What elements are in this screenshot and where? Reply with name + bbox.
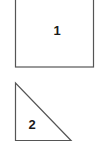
diagram-canvas: 1 2	[0, 0, 111, 156]
triangle-label: 2	[28, 117, 35, 132]
shape-square: 1	[16, 0, 94, 67]
square-label: 1	[53, 23, 60, 38]
shape-triangle: 2	[16, 83, 72, 141]
